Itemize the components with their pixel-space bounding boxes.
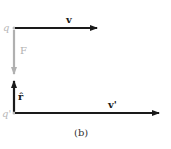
figure-caption: (b) [74,127,88,138]
vector-v-label: v [65,14,73,25]
vector-f-label: F [20,45,27,56]
vector-r-hat-label: r̂ [18,91,24,102]
vector-v-prime-label: v' [107,99,117,110]
charge-q-label: q [3,22,9,33]
charge-q-prime-label: q' [2,108,11,119]
vector-diagram: q v F r̂ q' v' (b) [0,0,171,149]
